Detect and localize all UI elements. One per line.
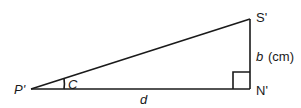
height-label-b: b (256, 49, 263, 64)
vertex-label-n: N' (256, 83, 268, 98)
base-label-d: d (140, 92, 148, 107)
vertex-label-s: S' (256, 10, 267, 25)
triangle-diagram: P' C d S' N' b (cm) (0, 0, 301, 108)
side-hypotenuse (31, 19, 250, 89)
triangle-shape (31, 19, 250, 89)
angle-label-c: C (68, 77, 78, 92)
right-angle-marker (233, 72, 250, 89)
vertex-label-p: P' (14, 82, 26, 97)
height-unit-label: (cm) (268, 49, 294, 64)
